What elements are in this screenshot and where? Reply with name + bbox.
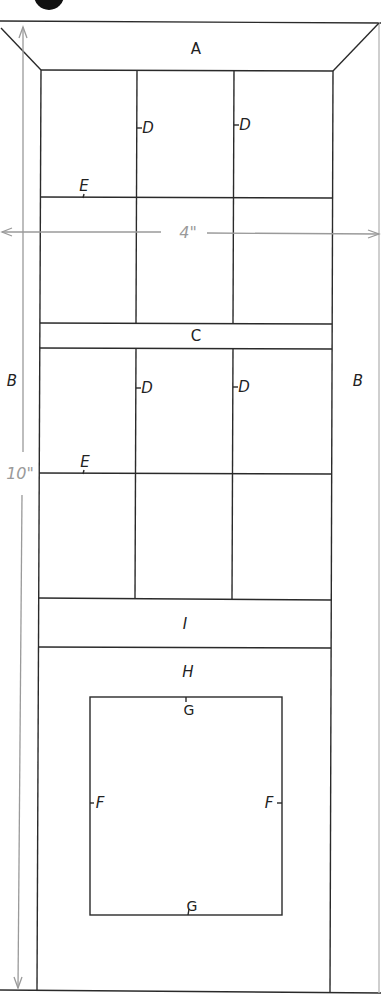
outer-top-edge [0, 21, 381, 23]
label-d-upper-right: D [239, 118, 251, 133]
c-rail-top [40, 323, 332, 324]
label-e-lower: E [80, 455, 89, 470]
upper-muntin-d-right [233, 70, 234, 323]
label-g-bottom: G [187, 899, 198, 913]
upper-muntin-d-left [136, 70, 137, 323]
height-dimension-label: 10" [4, 466, 36, 482]
outer-bottom-edge [0, 990, 381, 993]
label-e-upper: E [79, 179, 88, 194]
label-f-right: F [265, 796, 274, 811]
diagram-lines [0, 0, 381, 995]
right-stile-inner [330, 71, 333, 992]
cabinet-door-diagram: 4" 10" A B B C D D D D E E I H G G F F [0, 0, 381, 995]
label-b-right-stile: B [353, 374, 363, 389]
i-rail-top [38, 598, 331, 600]
a-bottom-edge [41, 70, 333, 71]
label-a-top-rail: A [191, 42, 201, 57]
left-stile-inner [37, 70, 41, 990]
i-rail-bottom [38, 647, 331, 648]
label-d-lower-right: D [238, 380, 250, 395]
label-d-lower-left: D [141, 381, 153, 396]
label-i-lower-rail: I [183, 617, 187, 632]
bevel-right [333, 23, 379, 71]
height-dimension-line-bottom [18, 495, 22, 988]
label-b-left-stile: B [7, 374, 17, 389]
label-g-top: G [184, 703, 195, 717]
inner-panel [90, 697, 282, 915]
label-d-upper-left: D [142, 121, 154, 136]
c-rail-bottom [40, 348, 332, 349]
label-c-middle-rail: C [191, 329, 201, 344]
width-dimension-label: 4" [173, 225, 203, 241]
label-h-lower-panel: H [182, 665, 193, 680]
label-f-left: F [96, 796, 105, 811]
